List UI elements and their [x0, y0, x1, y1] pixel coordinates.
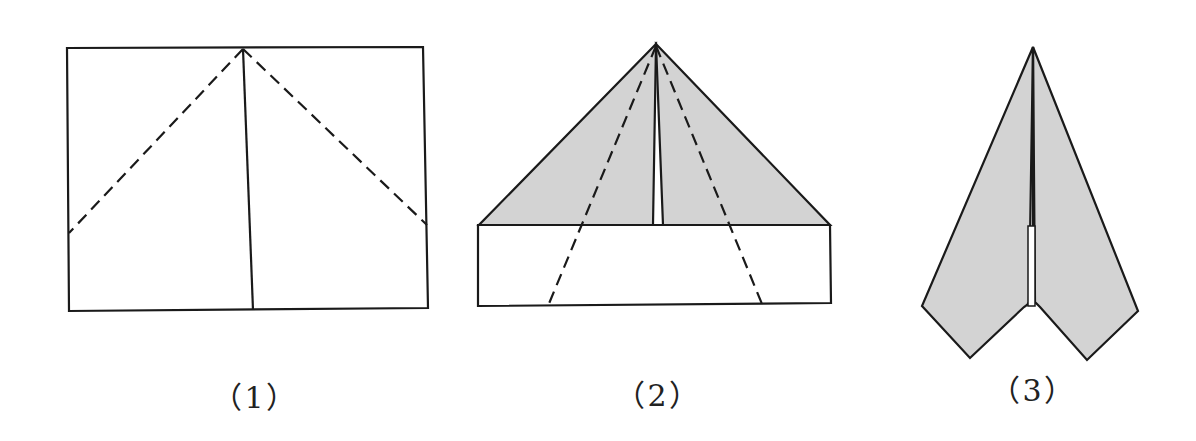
left-folded-flap	[479, 44, 656, 225]
step-1-label: （1）	[212, 373, 297, 417]
step-2-label: （2）	[615, 371, 700, 415]
left-wing	[922, 47, 1033, 358]
right-folded-flap	[656, 44, 830, 225]
bottom-rectangle	[478, 225, 831, 306]
right-wing	[1033, 47, 1138, 360]
step-2-figure	[478, 44, 831, 306]
tail-slit	[1028, 226, 1035, 306]
step-3-figure	[922, 47, 1138, 360]
step-3-label: （3）	[990, 366, 1075, 410]
step-1-figure	[67, 47, 428, 311]
